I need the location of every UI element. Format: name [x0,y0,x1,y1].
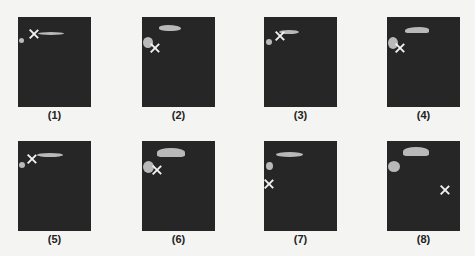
panel-label: (5) [18,233,91,245]
x-marker-icon [440,185,450,195]
panel-label: (2) [142,109,215,121]
image-panel-8 [387,141,460,231]
round-region [266,162,273,170]
panel-label: (4) [387,109,460,121]
panel-label: (3) [264,109,337,121]
round-region [266,39,272,45]
elongated-region [157,148,185,157]
x-marker-icon [29,29,39,39]
elongated-region [405,27,429,33]
round-region [19,162,25,168]
panel-label: (6) [142,233,215,245]
elongated-region [37,153,63,157]
x-marker-icon [27,154,37,164]
x-marker-icon [395,43,405,53]
panel-label: (8) [387,233,460,245]
round-region [388,161,400,172]
panel-label: (1) [18,109,91,121]
round-region [19,38,24,43]
image-panel-2 [142,17,215,107]
x-marker-icon [150,43,160,53]
image-panel-4 [387,17,460,107]
panel-label: (7) [264,233,337,245]
image-panel-5 [18,141,91,231]
elongated-region [159,25,181,31]
image-panel-1 [18,17,91,107]
elongated-region [38,32,64,35]
image-panel-3 [264,17,337,107]
x-marker-icon [275,31,285,41]
elongated-region [276,152,303,157]
image-panel-7 [264,141,337,231]
image-panel-6 [142,141,215,231]
x-marker-icon [264,179,274,189]
x-marker-icon [152,165,162,175]
elongated-region [403,147,429,156]
